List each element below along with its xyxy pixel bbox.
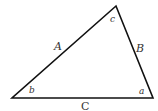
side-label-left: A [53, 40, 62, 53]
angle-label-bottom-right: a [139, 86, 144, 96]
side-label-right: B [135, 42, 144, 55]
triangle-diagram: A B C c b a [0, 0, 158, 111]
angle-label-top: c [110, 14, 115, 24]
angle-label-bottom-left: b [29, 85, 35, 95]
side-label-bottom: C [81, 100, 89, 111]
